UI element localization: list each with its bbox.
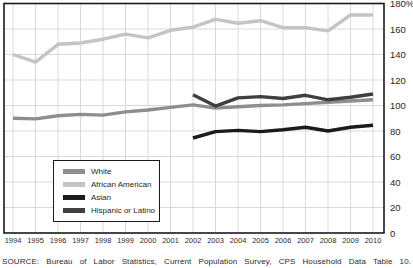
legend-item-african-american: African American [63, 180, 159, 189]
y-tick-label: 80 [390, 126, 413, 137]
x-tick-label: 1998 [92, 236, 115, 246]
x-tick-label: 2003 [204, 236, 227, 246]
x-tick-label: 2008 [317, 236, 340, 246]
y-tick-label: 100 [390, 100, 413, 111]
asian-series-swatch [63, 195, 85, 200]
chart-plot-area [0, 0, 413, 268]
x-tick-label: 2006 [272, 236, 295, 246]
x-tick-label: 2010 [362, 236, 385, 246]
y-tick-label: 60 [390, 151, 413, 162]
x-tick-label: 1997 [69, 236, 92, 246]
legend-label: African American [91, 180, 151, 189]
legend-label: Hispanic or Latino [91, 206, 155, 215]
legend-label: White [91, 167, 111, 176]
y-tick-label: 20 [390, 202, 413, 213]
x-tick-label: 1996 [47, 236, 70, 246]
x-tick-label: 2009 [339, 236, 362, 246]
african-american-series-swatch [63, 182, 85, 187]
x-tick-label: 1995 [24, 236, 47, 246]
source-note: SOURCE: Bureau of Labor Statistics, Curr… [2, 256, 411, 268]
x-tick-label: 2007 [294, 236, 317, 246]
x-tick-label: 2004 [227, 236, 250, 246]
x-tick-label: 2000 [137, 236, 160, 246]
x-tick-label: 2002 [182, 236, 205, 246]
legend: White African American Asian Hispanic or… [53, 160, 160, 222]
x-tick-label: 2001 [159, 236, 182, 246]
y-tick-label: 0 [390, 228, 413, 239]
legend-item-white: White [63, 167, 159, 176]
white-series-swatch [63, 169, 85, 174]
y-tick-label: 140 [390, 49, 413, 60]
x-tick-label: 2005 [249, 236, 272, 246]
y-tick-label: 160 [390, 24, 413, 35]
hispanic-series-swatch [63, 208, 85, 213]
y-tick-label: 40 [390, 177, 413, 188]
employment-population-ratio-chart: 180%160140120100806040200 19941995199619… [0, 0, 413, 268]
y-tick-label: 120 [390, 75, 413, 86]
legend-item-hispanic-or-latino: Hispanic or Latino [63, 206, 159, 215]
legend-label: Asian [91, 193, 111, 202]
legend-item-asian: Asian [63, 193, 159, 202]
x-tick-label: 1994 [2, 236, 25, 246]
y-tick-label: 180% [390, 0, 413, 9]
x-tick-label: 1999 [114, 236, 137, 246]
